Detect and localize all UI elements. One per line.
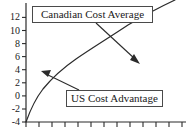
y-tick-label: 12 [0,12,20,22]
y-tick-label: 6 [0,52,20,62]
x-axis-ticks [26,122,182,127]
chart-figure: 12 10 8 6 4 2 0 -2 -4 Canadian Cost Aver… [0,0,189,134]
arrow-us-cost-advantage [41,70,79,90]
y-tick-label: 10 [0,26,20,36]
annotation-us-cost-advantage: US Cost Advantage [66,90,163,107]
y-tick-label: 0 [0,91,20,101]
y-tick-label: -4 [0,117,20,127]
y-tick-label: 4 [0,65,20,75]
y-tick-label: 2 [0,78,20,88]
y-tick-label: -2 [0,104,20,114]
arrow-canadian-cost-average [96,23,140,64]
y-tick-label: 8 [0,39,20,49]
annotation-canadian-cost-average: Canadian Cost Average [32,6,153,23]
